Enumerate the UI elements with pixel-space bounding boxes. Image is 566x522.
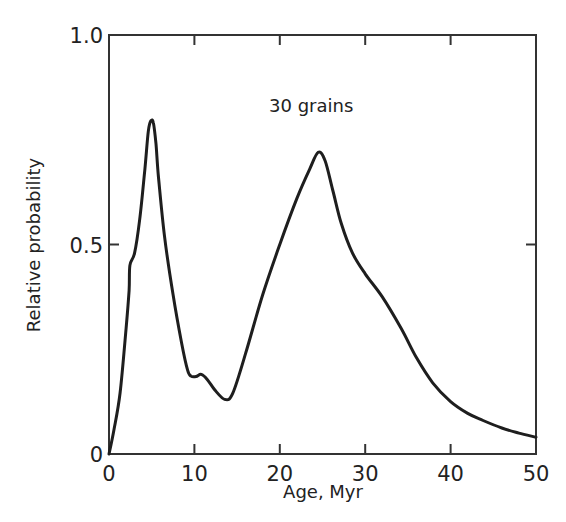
probability-curve — [109, 120, 536, 454]
x-tick-label: 40 — [437, 462, 464, 486]
y-axis-label: Relative probability — [23, 157, 44, 332]
y-tick-labels: 00.51.0 — [70, 24, 103, 467]
x-tick-label: 50 — [523, 462, 550, 486]
y-tick-label: 0 — [90, 443, 103, 467]
y-tick-label: 0.5 — [70, 234, 103, 258]
annotation-grain-count: 30 grains — [269, 95, 353, 116]
x-tick-label: 10 — [181, 462, 208, 486]
x-axis-label: Age, Myr — [283, 481, 363, 502]
probability-chart: 01020304050 00.51.0 30 grains Age, Myr R… — [0, 0, 566, 522]
y-tick-label: 1.0 — [70, 24, 103, 48]
x-tick-label: 0 — [102, 462, 115, 486]
